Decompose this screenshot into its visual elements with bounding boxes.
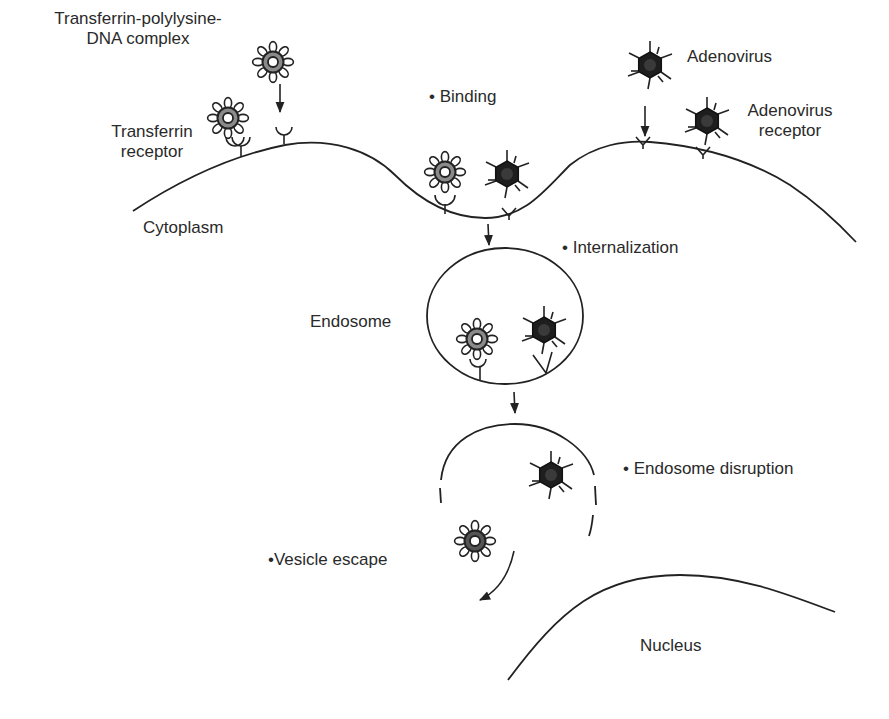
label-transferrin-receptor: Transferrin receptor xyxy=(97,122,207,162)
transferrin-receptor-pit xyxy=(435,195,455,214)
label-cytoplasm: Cytoplasm xyxy=(143,218,223,238)
adenovirus-endosome-icon xyxy=(522,306,566,354)
label-line: Transferrin xyxy=(97,122,207,142)
step-binding: • Binding xyxy=(429,87,496,107)
arrow-icon xyxy=(488,224,489,245)
label-line: Transferrin-polylysine- xyxy=(33,9,243,29)
step-vesicle-escape: •Vesicle escape xyxy=(268,550,387,570)
label-line: DNA complex xyxy=(33,29,243,49)
label-line: Adenovirus xyxy=(735,101,845,121)
adenovirus-receptor-endosome xyxy=(533,352,552,373)
transferrin-receptor-empty xyxy=(276,127,292,144)
disrupted-endosome xyxy=(440,424,596,536)
label-line: receptor xyxy=(735,121,845,141)
label-adenovirus: Adenovirus xyxy=(687,47,772,67)
step-internalization: • Internalization xyxy=(562,238,679,258)
label-endosome: Endosome xyxy=(310,312,391,332)
escape-arrow-icon xyxy=(480,551,514,600)
transferrin-complex-endosome-icon xyxy=(457,319,498,360)
label-line: receptor xyxy=(97,142,207,162)
transferrin-complex-bound-icon xyxy=(208,98,249,139)
adenovirus-released-icon xyxy=(529,451,573,499)
nucleus-membrane xyxy=(508,575,835,680)
endosome xyxy=(427,248,583,384)
adenovirus-pit-icon xyxy=(485,150,529,198)
adenovirus-bound-icon xyxy=(685,97,729,145)
transferrin-complex-escaping-icon xyxy=(455,521,496,562)
adenovirus-receptor xyxy=(696,147,710,159)
label-nucleus: Nucleus xyxy=(640,636,701,656)
step-endosome-disruption: • Endosome disruption xyxy=(623,459,793,479)
label-transferrin-dna-complex: Transferrin-polylysine- DNA complex xyxy=(33,9,243,49)
transferrin-dna-complex-icon xyxy=(253,42,294,83)
transferrin-receptor-bound xyxy=(226,137,250,157)
adenovirus-icon xyxy=(628,41,672,89)
transferrin-complex-pit-icon xyxy=(425,152,466,193)
adenovirus-receptor-empty xyxy=(636,137,650,149)
label-adenovirus-receptor: Adenovirus receptor xyxy=(735,101,845,141)
arrow-icon xyxy=(514,392,515,413)
